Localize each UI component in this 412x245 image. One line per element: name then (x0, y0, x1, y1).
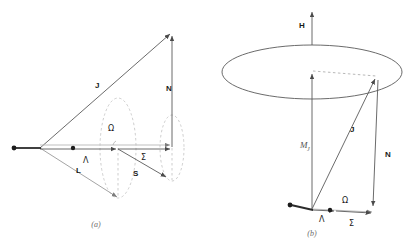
label-l-a: L (76, 166, 81, 175)
vector-diagram-canvas: J N L Λ Ω Σ S (a) H M J (0, 0, 412, 245)
label-n-a: N (166, 84, 172, 93)
omega-angle-arc-a (113, 141, 116, 145)
label-h-b: H (299, 21, 305, 30)
origin-dot-b (288, 203, 293, 208)
origin-axis-stub-b (291, 205, 313, 210)
lambda-tick-dot-a (71, 146, 75, 150)
vector-n-b (373, 80, 378, 206)
label-lambda-a: Λ (83, 156, 89, 165)
label-sigma-a: Σ (141, 153, 146, 162)
label-sigma-b: Σ (349, 219, 354, 228)
label-lambda-b: Λ (319, 215, 325, 224)
label-s-a: S (133, 169, 139, 178)
lambda-tick-dot-b (328, 208, 332, 212)
figure-container: J N L Λ Ω Σ S (a) H M J (0, 0, 412, 245)
label-n-b: N (385, 150, 391, 159)
radius-guide-b (313, 71, 376, 76)
label-omega-b: Ω (342, 196, 348, 205)
caption-a: (a) (91, 220, 101, 229)
caption-b: (b) (307, 229, 317, 238)
label-j-b: J (350, 125, 354, 134)
panel-a: J N L Λ Ω Σ S (a) (12, 34, 184, 229)
label-j-a: J (95, 81, 99, 90)
label-mj-subscript-b: J (307, 146, 310, 152)
vector-j-a (40, 34, 170, 148)
label-omega-a: Ω (108, 124, 114, 133)
origin-dot-a (12, 146, 17, 151)
panel-b: H M J J N Λ Ω Σ (b) (222, 12, 402, 238)
